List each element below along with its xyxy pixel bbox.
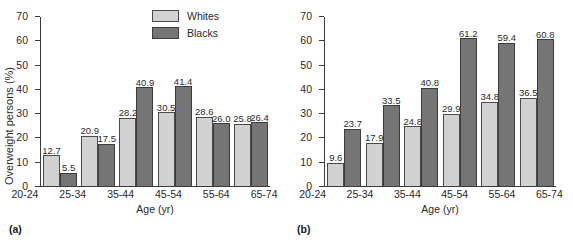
y-tick: 10 xyxy=(35,162,40,163)
bar-groups-a: 12.75.520.917.528.240.930.541.428.626.02… xyxy=(41,17,270,186)
bar-slot: 26.0 xyxy=(213,17,230,186)
bar-blacks-20-24: 23.7 xyxy=(344,129,361,186)
bar-whites-55-64: 28.6 xyxy=(196,117,213,186)
bar-value-label: 40.8 xyxy=(421,78,440,88)
y-tick: 60 xyxy=(319,40,324,41)
bar-value-label: 29.9 xyxy=(442,104,461,114)
bar-blacks-35-44: 40.9 xyxy=(136,87,153,186)
x-category-label: 25-34 xyxy=(49,189,97,200)
bar-blacks-55-64: 26.0 xyxy=(213,123,230,186)
bar-value-label: 24.8 xyxy=(404,117,423,127)
legend-label: Blacks xyxy=(187,28,218,39)
y-tick: 40 xyxy=(35,89,40,90)
y-tick-label: 20 xyxy=(16,132,28,143)
bar-group: 36.560.8 xyxy=(518,17,557,186)
y-tick: 60 xyxy=(35,40,40,41)
bar-slot: 59.4 xyxy=(498,17,515,186)
bar-slot: 25.8 xyxy=(234,17,251,186)
bar-value-label: 60.8 xyxy=(536,30,555,40)
plot-area-a: 010203040506070 12.75.520.917.528.240.93… xyxy=(40,17,270,187)
bar-group: 17.933.5 xyxy=(364,17,403,186)
bar-blacks-55-64: 59.4 xyxy=(498,43,515,186)
bar-value-label: 34.8 xyxy=(481,92,500,102)
bar-value-label: 30.5 xyxy=(157,103,176,113)
y-tick: 50 xyxy=(319,65,324,66)
panel-caption-b: (b) xyxy=(297,224,310,235)
bar-value-label: 9.6 xyxy=(329,153,342,163)
bar-value-label: 23.7 xyxy=(344,119,363,129)
bar-whites-65-74: 25.8 xyxy=(234,124,251,186)
bar-whites-65-74: 36.5 xyxy=(520,98,537,186)
chart-panel-b: 010203040506070 9.623.717.933.524.840.82… xyxy=(288,0,573,252)
x-category-label: 20-24 xyxy=(1,189,49,200)
bar-slot: 30.5 xyxy=(158,17,175,186)
bar-slot: 34.8 xyxy=(481,17,498,186)
y-tick-label: 30 xyxy=(16,108,28,119)
bar-whites-25-34: 20.9 xyxy=(81,136,98,186)
y-tick: 10 xyxy=(319,162,324,163)
bar-blacks-35-44: 40.8 xyxy=(421,88,438,187)
x-category-label: 65-74 xyxy=(526,189,573,200)
legend-item-blacks: Blacks xyxy=(152,27,219,39)
bar-groups-b: 9.623.717.933.524.840.829.961.234.859.43… xyxy=(325,17,556,186)
bar-whites-45-54: 29.9 xyxy=(443,114,460,186)
bar-group: 20.917.5 xyxy=(79,17,117,186)
bar-slot: 23.7 xyxy=(344,17,361,186)
x-axis-category-labels-b: 20-2425-3435-4445-5455-6465-74 xyxy=(289,189,573,200)
y-tick: 40 xyxy=(319,89,324,90)
bar-slot: 5.5 xyxy=(60,17,77,186)
panel-caption-a: (a) xyxy=(9,224,22,235)
x-axis-line-b xyxy=(324,186,556,187)
bar-group: 30.541.4 xyxy=(156,17,194,186)
bar-slot: 36.5 xyxy=(520,17,537,186)
bar-value-label: 33.5 xyxy=(382,96,401,106)
x-axis-title-a: Age (yr) xyxy=(40,204,270,215)
bar-slot: 33.5 xyxy=(383,17,400,186)
bar-blacks-20-24: 5.5 xyxy=(60,173,77,186)
x-category-label: 35-44 xyxy=(97,189,145,200)
bar-blacks-45-54: 41.4 xyxy=(175,86,192,186)
bar-slot: 17.9 xyxy=(366,17,383,186)
bar-value-label: 28.2 xyxy=(119,108,138,118)
bar-value-label: 26.0 xyxy=(212,114,231,124)
bar-group: 29.961.2 xyxy=(441,17,480,186)
chart-legend: WhitesBlacks xyxy=(152,10,219,39)
y-tick: 20 xyxy=(319,137,324,138)
y-tick: 50 xyxy=(35,65,40,66)
bar-whites-35-44: 24.8 xyxy=(404,126,421,186)
chart-panel-a: Overweight persons (%) 010203040506070 1… xyxy=(0,0,288,252)
bar-blacks-45-54: 61.2 xyxy=(460,38,477,186)
bar-blacks-25-34: 17.5 xyxy=(98,144,115,186)
bar-whites-45-54: 30.5 xyxy=(158,112,175,186)
bar-slot: 20.9 xyxy=(81,17,98,186)
bar-value-label: 26.4 xyxy=(250,113,269,123)
bar-group: 28.626.0 xyxy=(194,17,232,186)
bar-value-label: 59.4 xyxy=(498,33,517,43)
legend-swatch-blacks xyxy=(152,27,179,39)
y-tick-label: 10 xyxy=(300,156,312,167)
y-tick-label: 40 xyxy=(300,84,312,95)
x-category-label: 45-54 xyxy=(431,189,478,200)
bar-slot: 41.4 xyxy=(175,17,192,186)
bar-whites-55-64: 34.8 xyxy=(481,102,498,186)
bar-whites-25-34: 17.9 xyxy=(366,143,383,186)
x-category-label: 55-64 xyxy=(192,189,240,200)
x-category-label: 55-64 xyxy=(478,189,525,200)
legend-swatch-whites xyxy=(152,10,179,22)
y-tick-label: 40 xyxy=(16,84,28,95)
bar-slot: 28.2 xyxy=(119,17,136,186)
x-axis-title-b: Age (yr) xyxy=(324,204,556,215)
bar-blacks-65-74: 26.4 xyxy=(251,122,268,186)
bar-value-label: 5.5 xyxy=(62,163,75,173)
bar-whites-35-44: 28.2 xyxy=(119,118,136,186)
bar-slot: 9.6 xyxy=(327,17,344,186)
bar-whites-20-24: 12.7 xyxy=(43,155,60,186)
bar-slot: 17.5 xyxy=(98,17,115,186)
bar-group: 12.75.5 xyxy=(41,17,79,186)
bar-group: 28.240.9 xyxy=(117,17,155,186)
bar-whites-20-24: 9.6 xyxy=(327,163,344,186)
bar-slot: 60.8 xyxy=(537,17,554,186)
x-category-label: 35-44 xyxy=(384,189,431,200)
bar-value-label: 28.6 xyxy=(195,107,214,117)
bar-blacks-25-34: 33.5 xyxy=(383,105,400,186)
